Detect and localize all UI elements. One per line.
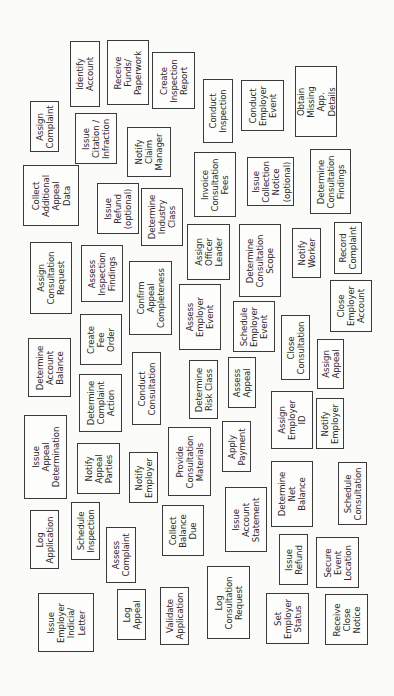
process-card-label: Conduct Employer Event bbox=[247, 85, 278, 125]
process-card-determine-industry-class: Determine Industry Class bbox=[141, 188, 183, 246]
process-card-label: Assign Complaint bbox=[34, 105, 54, 148]
process-card-log-appeal: Log Appeal bbox=[117, 589, 146, 640]
process-card-label: Issue Collection Notice (optional) bbox=[250, 161, 291, 203]
process-card-label: Assign Officer Leader bbox=[193, 238, 224, 267]
process-card-identify-account: Identify Account bbox=[70, 41, 100, 107]
process-card-issue-appeal-determination: Issue Appeal Determination bbox=[24, 415, 67, 499]
process-card-determine-consultation-scope: Determine Consultation Scope bbox=[239, 224, 281, 297]
process-card-collect-additional-appeal-data: Collect Additional Appeal Data bbox=[23, 165, 79, 226]
process-card-apply-payment: Apply Payment bbox=[222, 421, 251, 472]
process-card-assign-complaint: Assign Complaint bbox=[30, 101, 59, 152]
diagram-canvas: Identify AccountReceive Funds/ Paperwork… bbox=[0, 0, 394, 696]
process-card-close-consultation: Close Consultation bbox=[281, 315, 310, 380]
process-card-assign-appeal: Assign Appeal bbox=[317, 339, 344, 389]
process-card-label: Apply Payment bbox=[226, 428, 246, 465]
process-card-label: Schedule Employer Event bbox=[239, 306, 270, 346]
process-card-label: Identify Account bbox=[75, 57, 95, 91]
process-card-label: Secure Event Location bbox=[322, 545, 353, 581]
process-card-issue-refund-optional: Issue Refund (optional) bbox=[97, 183, 139, 234]
process-card-notify-appeal-parties: Notify Appeal Parties bbox=[77, 443, 120, 494]
process-card-label: Record Complaint bbox=[338, 226, 358, 269]
process-card-label: Assign Consultation Request bbox=[36, 252, 67, 305]
process-card-label: Assign Appeal bbox=[320, 349, 340, 378]
process-card-issue-collection-notice-optional: Issue Collection Notice (optional) bbox=[247, 157, 294, 206]
process-card-label: Receive Close Notice bbox=[331, 603, 362, 636]
process-card-notify-employer-mid: Notify Employer bbox=[129, 452, 158, 503]
process-card-label: Determine Consultation Scope bbox=[245, 234, 276, 287]
process-card-label: Validate Application bbox=[164, 593, 184, 640]
process-card-issue-refund: Issue Refund bbox=[279, 534, 308, 585]
process-card-label: Issue Citation / Infraction bbox=[81, 119, 112, 159]
process-card-label: Log Consultation Request bbox=[213, 576, 244, 629]
process-card-schedule-employer-event: Schedule Employer Event bbox=[233, 301, 275, 352]
process-card-invoice-consultation-fees: Invoice Consultation Fees bbox=[194, 152, 236, 217]
process-card-notify-employer-right: Notify Employer bbox=[316, 398, 344, 449]
process-card-label: Collect Additional Appeal Data bbox=[31, 174, 72, 216]
process-card-issue-citation-infraction: Issue Citation / Infraction bbox=[75, 113, 117, 164]
process-card-notify-claim-manager: Notify Claim Manager bbox=[127, 127, 171, 177]
process-card-label: Log Appeal bbox=[121, 600, 141, 629]
process-card-determine-consultation-findings: Determine Consultation Findings bbox=[310, 149, 351, 214]
process-card-assign-officer-leader: Assign Officer Leader bbox=[187, 224, 230, 280]
process-card-obtain-missing-app-details: Obtain Missing App. Details bbox=[295, 66, 337, 137]
process-card-receive-funds-paperwork: Receive Funds/ Paperwork bbox=[107, 40, 149, 105]
process-card-determine-risk-class: Determine Risk Class bbox=[189, 360, 218, 419]
process-card-secure-event-location: Secure Event Location bbox=[316, 537, 359, 588]
process-card-label: Collect Balance Due bbox=[168, 514, 199, 548]
process-card-label: Conduct Consultation bbox=[136, 362, 156, 415]
process-card-set-employer-status: Set Employer Status bbox=[266, 593, 309, 644]
process-card-label: Determine Complaint Action bbox=[85, 381, 116, 426]
process-card-label: Determine Industry Class bbox=[147, 195, 178, 240]
process-card-determine-complaint-action: Determine Complaint Action bbox=[79, 374, 122, 432]
process-card-assign-consultation-request: Assign Consultation Request bbox=[30, 242, 72, 314]
process-card-label: Receive Funds/ Paperwork bbox=[113, 50, 144, 94]
process-card-label: Notify Appeal Parties bbox=[83, 454, 114, 483]
process-card-label: Determine Net Balance bbox=[277, 472, 308, 517]
process-card-schedule-consultation: Schedule Consultation bbox=[338, 462, 367, 525]
process-card-collect-balance-due: Collect Balance Due bbox=[162, 505, 204, 556]
process-card-label: Schedule Consultation bbox=[342, 467, 362, 520]
process-card-assess-inspection-findings: Assess Inspection Findings bbox=[81, 245, 123, 302]
process-card-label: Invoice Consultation Fees bbox=[200, 158, 231, 211]
process-card-label: Notify Employer bbox=[320, 403, 340, 443]
process-card-label: Issue Employer Indicia/ Letter bbox=[46, 602, 87, 642]
process-card-label: Log Application bbox=[34, 516, 54, 563]
process-card-label: Provide Consultation Materials bbox=[174, 435, 205, 488]
process-card-label: Assign Employer ID bbox=[277, 400, 308, 440]
process-card-label: Confirm Appeal Completeness bbox=[135, 268, 166, 328]
process-card-conduct-employer-event: Conduct Employer Event bbox=[241, 80, 284, 131]
process-card-label: Issue Refund (optional) bbox=[103, 188, 134, 229]
process-card-label: Conduct Inspection bbox=[208, 89, 228, 132]
process-card-label: Notify Worker bbox=[296, 238, 316, 268]
process-card-assign-employer-id: Assign Employer ID bbox=[271, 391, 313, 449]
process-card-validate-application: Validate Application bbox=[160, 587, 189, 645]
process-card-log-application: Log Application bbox=[30, 510, 59, 569]
process-card-label: Obtain Missing App. Details bbox=[296, 86, 337, 117]
process-card-notify-worker: Notify Worker bbox=[292, 228, 321, 278]
process-card-record-complaint: Record Complaint bbox=[334, 222, 362, 274]
process-card-label: Assess Complaint bbox=[111, 533, 131, 576]
process-card-label: Issue Refund bbox=[283, 545, 303, 575]
process-card-schedule-inspection: Schedule Inspection bbox=[71, 502, 100, 560]
process-card-label: Determine Risk Class bbox=[193, 367, 213, 412]
process-card-label: Schedule Inspection bbox=[75, 509, 95, 552]
process-card-issue-employer-indicia-letter: Issue Employer Indicia/ Letter bbox=[38, 593, 94, 652]
process-card-provide-consultation-materials: Provide Consultation Materials bbox=[168, 427, 211, 496]
process-card-determine-net-balance: Determine Net Balance bbox=[271, 461, 313, 527]
process-card-label: Set Employer Status bbox=[272, 598, 303, 638]
process-card-label: Determine Consultation Findings bbox=[315, 155, 346, 208]
process-card-log-consultation-request: Log Consultation Request bbox=[207, 566, 250, 639]
process-card-assess-appeal: Assess Appeal bbox=[228, 357, 256, 408]
process-card-label: Issue Account Statement bbox=[231, 497, 262, 541]
process-card-assess-employer-event: Assess Employer Event bbox=[179, 284, 221, 350]
process-card-label: Notify Employer bbox=[133, 457, 153, 497]
process-card-confirm-appeal-completeness: Confirm Appeal Completeness bbox=[129, 261, 172, 335]
process-card-assess-complaint: Assess Complaint bbox=[106, 527, 136, 583]
process-card-receive-close-notice: Receive Close Notice bbox=[325, 594, 368, 645]
process-card-conduct-consultation: Conduct Consultation bbox=[132, 352, 161, 425]
process-card-label: Create Inspection Report bbox=[158, 59, 189, 102]
process-card-conduct-inspection: Conduct Inspection bbox=[203, 79, 233, 143]
process-card-create-inspection-report: Create Inspection Report bbox=[152, 52, 195, 109]
process-card-label: Assess Appeal bbox=[232, 368, 252, 397]
process-card-label: Close Employer Account bbox=[336, 286, 367, 326]
